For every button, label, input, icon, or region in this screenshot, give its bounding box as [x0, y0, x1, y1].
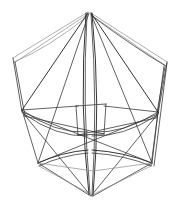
wireframe-drawing: [0, 0, 182, 207]
wireframe-figure-canvas: [0, 0, 182, 207]
figure-background: [0, 0, 182, 207]
